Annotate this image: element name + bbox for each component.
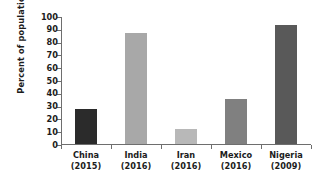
x-axis-label-mexico: Mexico(2016) xyxy=(211,150,261,172)
y-tick-label: 30 xyxy=(47,101,58,111)
x-label-year: (2015) xyxy=(61,161,111,172)
bar-china[interactable] xyxy=(75,109,97,144)
x-tick-mark xyxy=(311,145,312,149)
y-tick-label: 20 xyxy=(47,114,58,124)
plot-area: 0102030405060708090100 xyxy=(61,17,311,145)
y-tick-label: 90 xyxy=(47,24,58,34)
bar-mexico[interactable] xyxy=(225,99,247,144)
bar-iran[interactable] xyxy=(175,129,197,144)
x-axis-label-china: China(2015) xyxy=(61,150,111,172)
bar-india[interactable] xyxy=(125,33,147,144)
x-label-year: (2016) xyxy=(111,161,161,172)
x-label-country: Mexico xyxy=(211,150,261,161)
x-axis-label-nigeria: Nigeria(2009) xyxy=(261,150,311,172)
x-label-country: India xyxy=(111,150,161,161)
x-axis-spine xyxy=(61,144,311,145)
x-label-country: China xyxy=(61,150,111,161)
x-axis-label-india: India(2016) xyxy=(111,150,161,172)
x-axis-labels: China(2015)India(2016)Iran(2016)Mexico(2… xyxy=(61,150,311,180)
chart-title xyxy=(0,0,325,1)
y-axis-spine xyxy=(61,17,62,145)
x-label-country: Iran xyxy=(161,150,211,161)
y-tick-label: 70 xyxy=(47,50,58,60)
y-tick-label: 100 xyxy=(41,12,58,22)
y-axis-title: Percent of population xyxy=(16,0,26,97)
x-label-year: (2016) xyxy=(161,161,211,172)
x-tick-mark xyxy=(211,145,212,149)
x-tick-mark xyxy=(161,145,162,149)
y-tick-label: 60 xyxy=(47,63,58,73)
x-tick-mark xyxy=(111,145,112,149)
y-tick-label: 40 xyxy=(47,88,58,98)
x-axis-label-iran: Iran(2016) xyxy=(161,150,211,172)
x-label-year: (2016) xyxy=(211,161,261,172)
y-tick-label: 50 xyxy=(47,76,58,86)
y-tick-label: 10 xyxy=(47,127,58,137)
x-label-year: (2009) xyxy=(261,161,311,172)
y-tick-label: 80 xyxy=(47,37,58,47)
x-label-country: Nigeria xyxy=(261,150,311,161)
y-tick-label: 0 xyxy=(52,140,58,150)
x-tick-mark xyxy=(261,145,262,149)
bar-chart-figure: Percent of population 010203040506070809… xyxy=(0,0,325,185)
bar-nigeria[interactable] xyxy=(275,25,297,144)
x-tick-mark xyxy=(61,145,62,149)
